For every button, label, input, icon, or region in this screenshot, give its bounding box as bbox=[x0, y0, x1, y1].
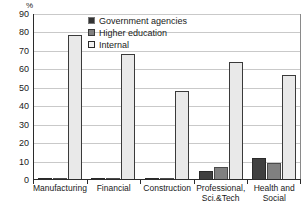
legend-item[interactable]: Internal bbox=[88, 39, 187, 50]
chart-legend: Government agenciesHigher educationInter… bbox=[88, 15, 187, 50]
y-axis-tick-label: 70 bbox=[5, 46, 29, 56]
bar bbox=[68, 35, 82, 180]
bar-group bbox=[33, 14, 87, 180]
legend-item[interactable]: Government agencies bbox=[88, 15, 187, 26]
bar bbox=[175, 91, 189, 180]
y-axis-tick-label: 50 bbox=[5, 83, 29, 93]
y-axis-tick-label: 30 bbox=[5, 120, 29, 130]
y-axis-tick-label: 40 bbox=[5, 101, 29, 111]
bar-group bbox=[247, 14, 301, 180]
legend-item-label: Higher education bbox=[99, 28, 167, 38]
y-axis-tick-label: 20 bbox=[5, 138, 29, 148]
bar bbox=[267, 163, 281, 180]
y-axis-tick-label: 80 bbox=[5, 27, 29, 37]
bar bbox=[121, 54, 135, 180]
legend-swatch-icon bbox=[88, 17, 95, 24]
y-axis-tick-label: 0 bbox=[5, 175, 29, 185]
y-axis-tick-label: 90 bbox=[5, 9, 29, 19]
bar bbox=[282, 75, 296, 180]
bar bbox=[252, 158, 266, 180]
bar-group bbox=[194, 14, 248, 180]
x-axis-category-label: Professional, Sci.&Tech bbox=[194, 183, 248, 203]
legend-swatch-icon bbox=[88, 41, 95, 48]
y-axis-tick-label: 60 bbox=[5, 64, 29, 74]
x-axis-category-label: Manufacturing bbox=[33, 183, 87, 203]
legend-item-label: Internal bbox=[99, 40, 129, 50]
plot-right-border bbox=[300, 14, 301, 180]
x-axis-category-label: Construction bbox=[140, 183, 194, 203]
x-axis-category-label: Financial bbox=[87, 183, 141, 203]
x-axis-category-label: Health and Social bbox=[247, 183, 301, 203]
y-axis-tick-label: 10 bbox=[5, 157, 29, 167]
bar bbox=[229, 62, 243, 180]
y-axis-line bbox=[33, 14, 34, 180]
legend-item-label: Government agencies bbox=[99, 16, 187, 26]
legend-swatch-icon bbox=[88, 29, 95, 36]
legend-item[interactable]: Higher education bbox=[88, 27, 187, 38]
x-axis-category-labels: ManufacturingFinancialConstructionProfes… bbox=[33, 183, 301, 203]
bar-chart: % 9080706050403020100 ManufacturingFinan… bbox=[0, 0, 306, 220]
x-axis-line bbox=[33, 179, 301, 181]
